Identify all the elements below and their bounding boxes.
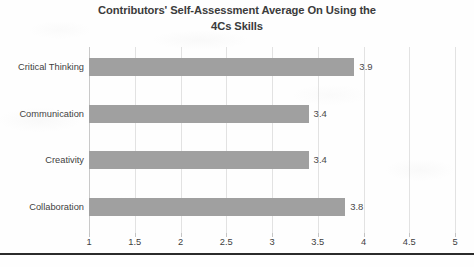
x-tick-label-4-5: 4.5 <box>403 237 416 247</box>
bar-value-label: 3.9 <box>359 58 372 76</box>
x-tick-label-1: 1 <box>86 237 91 247</box>
x-tick-label-1-5: 1.5 <box>128 237 141 247</box>
bar-value-label: 3.4 <box>314 151 327 169</box>
y-axis-label-collaboration: Collaboration <box>29 198 84 216</box>
x-tick-label-3: 3 <box>269 237 274 247</box>
y-axis-category-labels: Critical ThinkingCommunicationCreativity… <box>0 47 84 233</box>
chart-title-line-1: Contributors' Self-Assessment Average On… <box>60 3 414 19</box>
page-bottom-rule <box>0 253 474 255</box>
x-axis-tick-labels: 11.522.533.544.55 <box>89 237 455 251</box>
chart-title: Contributors' Self-Assessment Average On… <box>60 3 414 34</box>
chart-title-line-2: 4Cs Skills <box>60 19 414 35</box>
y-axis-label-critical-thinking: Critical Thinking <box>18 58 84 76</box>
x-tick-label-2-5: 2.5 <box>220 237 233 247</box>
bar[interactable] <box>89 105 309 123</box>
bar[interactable] <box>89 198 345 216</box>
gridline-5 <box>455 47 456 233</box>
x-tick-label-4: 4 <box>361 237 366 247</box>
y-axis-label-creativity: Creativity <box>45 151 84 169</box>
bar-value-label: 3.8 <box>350 198 363 216</box>
x-tick-label-5: 5 <box>452 237 457 247</box>
bar[interactable] <box>89 58 354 76</box>
x-tick-label-3-5: 3.5 <box>311 237 324 247</box>
bar[interactable] <box>89 151 309 169</box>
x-tick-label-2: 2 <box>178 237 183 247</box>
plot-area: 3.93.43.43.8 <box>89 47 455 233</box>
gridline-4-5 <box>409 47 410 233</box>
y-axis-label-communication: Communication <box>19 105 84 123</box>
bar-value-label: 3.4 <box>314 105 327 123</box>
